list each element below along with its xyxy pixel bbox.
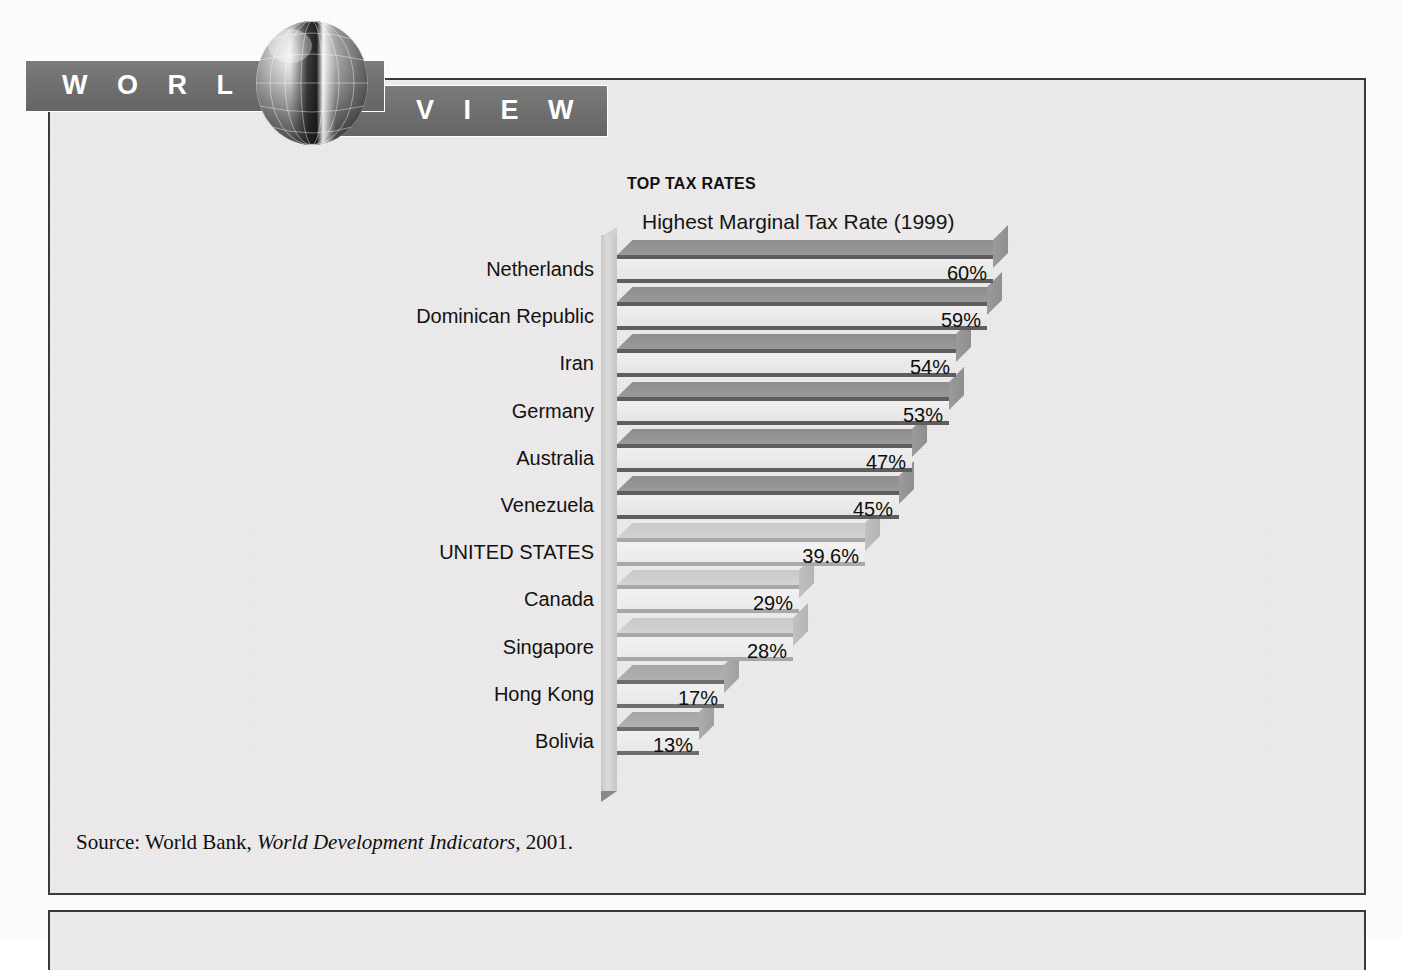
bar-value-label: 59% [941, 310, 981, 330]
bar: 39.6% [617, 538, 865, 566]
bar-category-label: Germany [94, 400, 594, 423]
bar-front-face: 39.6% [617, 538, 865, 566]
bar: 29% [617, 585, 799, 613]
bar-category-label: Bolivia [94, 730, 594, 753]
bar-category-label: Iran [94, 352, 594, 375]
bar-top-face [617, 570, 815, 585]
bar-value-label: 29% [753, 593, 793, 613]
bar-top-face [617, 429, 928, 444]
bar-front-face: 59% [617, 302, 987, 330]
bar-rows: Netherlands60%Dominican Republic59%Iran5… [50, 80, 1364, 893]
bar: 54% [617, 349, 956, 377]
bar: 53% [617, 397, 949, 425]
bar-top-face [617, 240, 1009, 255]
bar-front-face: 45% [617, 491, 899, 519]
bar-top-face [617, 618, 809, 633]
bar-top-face [617, 665, 740, 680]
bar-front-face: 28% [617, 633, 793, 661]
source-publication-title: World Development Indicators, [257, 830, 520, 854]
source-prefix: Source: World Bank, [76, 830, 252, 854]
bar-category-label: Venezuela [94, 494, 594, 517]
bar: 60% [617, 255, 993, 283]
bar: 45% [617, 491, 899, 519]
bar: 28% [617, 633, 793, 661]
bar-category-label: Netherlands [94, 258, 594, 281]
bar-front-face: 54% [617, 349, 956, 377]
bar-value-label: 54% [910, 357, 950, 377]
bar-side-face [993, 225, 1008, 268]
bar: 13% [617, 727, 699, 755]
bar-category-label: Singapore [94, 636, 594, 659]
bar-front-face: 47% [617, 444, 912, 472]
bar-top-face [617, 523, 881, 538]
bar-front-face: 13% [617, 727, 699, 755]
bar-value-label: 39.6% [802, 546, 859, 566]
bar-front-face: 60% [617, 255, 993, 283]
source-note: Source: World Bank, World Development In… [76, 830, 573, 855]
bar-value-label: 45% [853, 499, 893, 519]
bar-category-label: Canada [94, 588, 594, 611]
bar-value-label: 28% [747, 641, 787, 661]
bar: 47% [617, 444, 912, 472]
bar-top-face [617, 382, 965, 397]
world-view-panel: TOP TAX RATES Highest Marginal Tax Rate … [48, 78, 1366, 895]
bar-value-label: 47% [866, 452, 906, 472]
globe-icon [250, 12, 374, 152]
bar: 17% [617, 680, 724, 708]
bar-value-label: 17% [678, 688, 718, 708]
category-axis-wall [601, 235, 617, 791]
bar-front-face: 29% [617, 585, 799, 613]
bar-category-label: UNITED STATES [94, 541, 594, 564]
bar-front-face: 17% [617, 680, 724, 708]
bar-value-label: 53% [903, 405, 943, 425]
bar-category-label: Australia [94, 447, 594, 470]
bar-value-label: 13% [653, 735, 693, 755]
bar-front-face: 53% [617, 397, 949, 425]
next-panel-partial [48, 910, 1366, 970]
bar: 59% [617, 302, 987, 330]
chart-area: TOP TAX RATES Highest Marginal Tax Rate … [50, 80, 1364, 893]
axis-wall-foot-bevel [601, 791, 617, 802]
bar-category-label: Dominican Republic [94, 305, 594, 328]
bar-top-face [617, 476, 915, 491]
bar-value-label: 60% [947, 263, 987, 283]
bar-top-face [617, 287, 1003, 302]
bar-category-label: Hong Kong [94, 683, 594, 706]
bar-top-face [617, 334, 972, 349]
source-year: 2001. [526, 830, 573, 854]
